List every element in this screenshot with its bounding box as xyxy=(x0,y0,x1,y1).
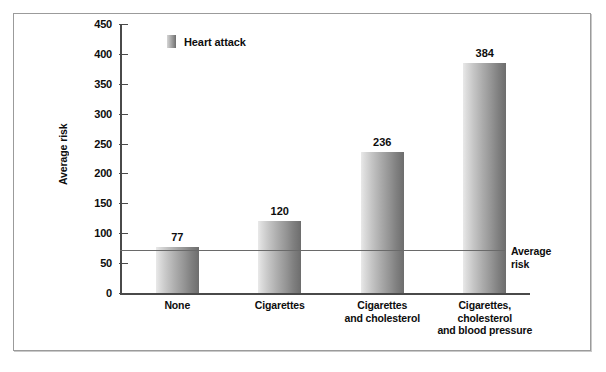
bar-value-label: 236 xyxy=(373,136,391,148)
x-axis-category-label: Cigarettes,cholesteroland blood pressure xyxy=(405,299,565,337)
y-axis-tick-label: 200 xyxy=(94,167,112,179)
y-axis-tick-label: 350 xyxy=(94,78,112,90)
bar-value-label: 77 xyxy=(171,231,183,243)
y-axis-tick-label: 400 xyxy=(94,48,112,60)
y-axis-tick: 400 xyxy=(119,54,128,55)
y-axis-tick-label: 50 xyxy=(100,257,112,269)
y-axis-tick: 200 xyxy=(119,173,128,174)
y-axis-tick: 0 xyxy=(119,293,128,294)
average-risk-annotation-label: Average risk xyxy=(511,245,551,271)
bar-value-label: 384 xyxy=(476,47,494,59)
y-axis-tick-label: 250 xyxy=(94,138,112,150)
y-axis-tick: 100 xyxy=(119,233,128,234)
y-axis-title: Average risk xyxy=(56,109,70,199)
y-axis-tick-label: 100 xyxy=(94,227,112,239)
plot-area: 450400350300250200150100500 77120236384 xyxy=(120,24,530,293)
average-risk-annotation-line-2: risk xyxy=(511,258,551,271)
bar[interactable]: 77 xyxy=(156,247,199,293)
y-axis-line xyxy=(120,24,122,293)
y-axis-tick: 150 xyxy=(119,203,128,204)
x-axis-line xyxy=(120,293,530,295)
y-axis-tick-label: 0 xyxy=(106,287,112,299)
y-axis-tick: 250 xyxy=(119,144,128,145)
average-risk-annotation-line-1: Average xyxy=(511,245,551,258)
y-axis-tick-label: 150 xyxy=(94,197,112,209)
bar[interactable]: 236 xyxy=(361,152,404,293)
y-axis-tick: 450 xyxy=(119,24,128,25)
y-axis-tick-label: 300 xyxy=(94,108,112,120)
y-axis-tick: 50 xyxy=(119,263,128,264)
y-axis-tick-label: 450 xyxy=(94,18,112,30)
x-axis-category-label-line: cholesterol xyxy=(405,312,565,325)
bar[interactable]: 120 xyxy=(258,221,301,293)
x-axis-category-label-line: Cigarettes, xyxy=(405,299,565,312)
bar[interactable]: 384 xyxy=(463,63,506,293)
x-axis-category-label-line: and blood pressure xyxy=(405,324,565,337)
y-axis-tick: 300 xyxy=(119,114,128,115)
bar-value-label: 120 xyxy=(271,205,289,217)
y-axis-tick: 350 xyxy=(119,84,128,85)
average-risk-reference-line xyxy=(120,250,505,251)
